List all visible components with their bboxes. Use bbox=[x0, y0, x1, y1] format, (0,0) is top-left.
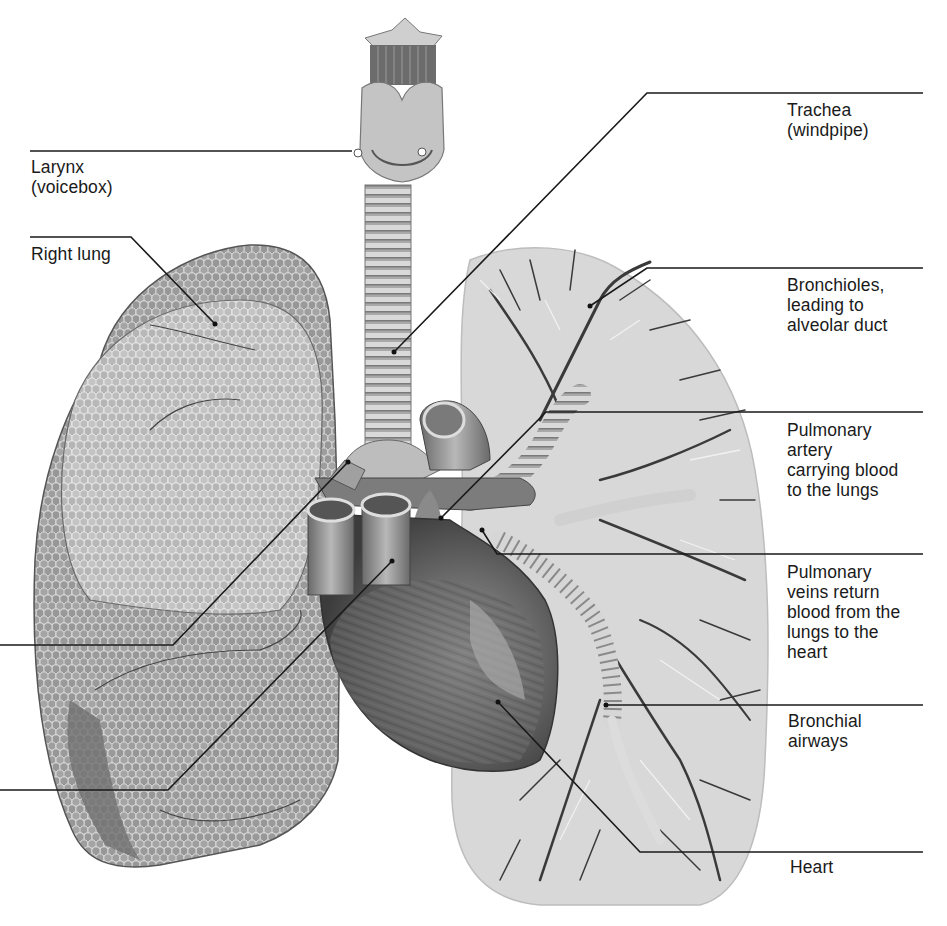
label-pulmonary-artery: Pulmonary artery carrying blood to the l… bbox=[787, 420, 898, 500]
label-larynx: Larynx (voicebox) bbox=[31, 157, 113, 197]
label-trachea: Trachea (windpipe) bbox=[787, 100, 869, 140]
label-pulmonary-veins: Pulmonary veins return blood from the lu… bbox=[787, 562, 900, 662]
label-heart: Heart bbox=[790, 857, 833, 877]
label-bronchial-airways: Bronchial airways bbox=[788, 711, 862, 751]
lung-anatomy-diagram: Larynx (voicebox) Right lung Trachea (wi… bbox=[0, 0, 947, 926]
label-bronchioles: Bronchioles, leading to alveolar duct bbox=[787, 275, 888, 335]
label-right-lung: Right lung bbox=[31, 244, 111, 264]
right-lung-illustration bbox=[34, 245, 340, 867]
